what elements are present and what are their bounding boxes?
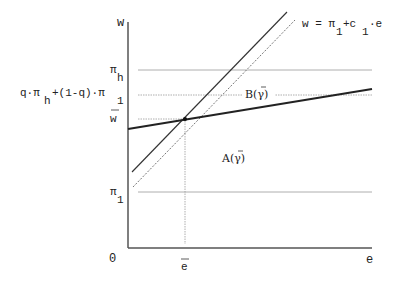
e-bar-label: e — [181, 259, 189, 273]
diagram-canvas: w e 0 π h q·π h +(1-q)·π 1 w π 1 e w = π… — [0, 0, 408, 286]
pi-1-label: π 1 — [110, 186, 124, 206]
svg-text:π: π — [110, 64, 117, 76]
svg-text:q·π: q·π — [20, 87, 40, 99]
svg-text:e: e — [181, 261, 188, 273]
equilibrium-point — [183, 117, 187, 121]
svg-text:1: 1 — [117, 95, 124, 107]
region-a-label: A(γ) — [221, 151, 245, 165]
pi-h-label: π h — [110, 64, 124, 84]
svg-text:h: h — [117, 72, 124, 84]
svg-text:h: h — [44, 95, 51, 107]
x-axis-label: e — [366, 253, 373, 267]
svg-text:π: π — [110, 186, 117, 198]
svg-text:B(γ): B(γ) — [245, 88, 268, 101]
svg-text:1: 1 — [336, 26, 343, 38]
svg-text:·e: ·e — [369, 18, 382, 30]
svg-text:1: 1 — [117, 194, 124, 206]
q-mix-label: q·π h +(1-q)·π 1 — [20, 87, 124, 107]
dotted-diagonal-line — [133, 20, 295, 187]
svg-text:1: 1 — [362, 26, 369, 38]
region-b-label: B(γ) — [245, 87, 268, 101]
curve-equation-label: w = π 1 +c 1 ·e — [302, 18, 382, 38]
y-axis-label: w — [117, 16, 125, 30]
svg-text:A(γ): A(γ) — [221, 152, 245, 165]
svg-text:w: w — [110, 113, 117, 125]
svg-text:+(1-q)·π: +(1-q)·π — [52, 87, 105, 99]
svg-text:+c: +c — [343, 18, 356, 30]
origin-label: 0 — [109, 252, 116, 266]
w-bar-label: w — [110, 110, 119, 125]
svg-text:w = π: w = π — [302, 18, 335, 30]
